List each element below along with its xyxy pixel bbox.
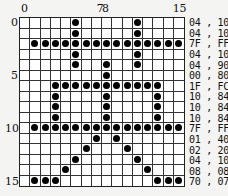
grid-cell [143, 102, 153, 113]
filled-dot-icon [154, 40, 161, 47]
grid-cell [164, 50, 174, 61]
grid-cell [71, 176, 81, 187]
grid-cell [71, 113, 81, 124]
grid-cell [41, 176, 51, 187]
grid-cell [153, 134, 163, 145]
grid-cell [41, 29, 51, 40]
grid-cell [20, 165, 30, 176]
grid-cell [123, 60, 133, 71]
filled-dot-icon [134, 51, 141, 58]
grid-cell [112, 81, 122, 92]
filled-dot-icon [154, 82, 161, 89]
filled-dot-icon [144, 40, 151, 47]
grid-cell [133, 155, 143, 166]
grid-cell [41, 113, 51, 124]
grid-cell [112, 102, 122, 113]
grid-cell [112, 176, 122, 187]
filled-dot-icon [154, 93, 161, 100]
grid-cell [82, 113, 92, 124]
grid-cell [133, 60, 143, 71]
grid-cell [41, 81, 51, 92]
grid-cell [174, 18, 184, 29]
grid-cell [153, 165, 163, 176]
filled-dot-icon [144, 82, 151, 89]
grid-cell [92, 71, 102, 82]
column-label: 8 [102, 3, 109, 14]
grid-cell [133, 92, 143, 103]
filled-dot-icon [31, 40, 38, 47]
grid-cell [41, 18, 51, 29]
grid-cell [133, 144, 143, 155]
filled-dot-icon [175, 124, 182, 131]
grid-cell [133, 81, 143, 92]
row-hex-code: 10 , 84 [189, 103, 228, 114]
grid-cell [82, 60, 92, 71]
grid-cell [102, 123, 112, 134]
grid-cell [174, 134, 184, 145]
grid-cell [102, 18, 112, 29]
grid-cell [51, 144, 61, 155]
grid-cell [71, 81, 81, 92]
filled-dot-icon [134, 156, 141, 163]
grid-cell [164, 102, 174, 113]
filled-dot-icon [134, 19, 141, 26]
grid-cell [164, 29, 174, 40]
filled-dot-icon [103, 114, 110, 121]
filled-dot-icon [31, 124, 38, 131]
filled-dot-icon [113, 82, 120, 89]
grid-cell [153, 50, 163, 61]
grid-cell [174, 113, 184, 124]
dot-matrix-grid [19, 17, 185, 187]
grid-cell [143, 29, 153, 40]
grid-cell [174, 39, 184, 50]
grid-cell [61, 155, 71, 166]
grid-cell [133, 71, 143, 82]
filled-dot-icon [93, 40, 100, 47]
grid-cell [82, 50, 92, 61]
filled-dot-icon [103, 124, 110, 131]
filled-dot-icon [124, 40, 131, 47]
grid-cell [164, 113, 174, 124]
grid-cell [123, 92, 133, 103]
grid-cell [123, 165, 133, 176]
filled-dot-icon [52, 177, 59, 184]
grid-cell [153, 18, 163, 29]
filled-dot-icon [52, 40, 59, 47]
grid-cell [71, 155, 81, 166]
grid-cell [20, 60, 30, 71]
grid-cell [102, 134, 112, 145]
grid-cell [51, 29, 61, 40]
grid-cell [20, 29, 30, 40]
grid-cell [51, 92, 61, 103]
grid-cell [30, 92, 40, 103]
grid-cell [82, 39, 92, 50]
filled-dot-icon [93, 135, 100, 142]
grid-cell [143, 50, 153, 61]
grid-cell [61, 18, 71, 29]
grid-cell [153, 71, 163, 82]
grid-cell [61, 50, 71, 61]
filled-dot-icon [103, 82, 110, 89]
grid-cell [164, 155, 174, 166]
grid-cell [123, 123, 133, 134]
grid-cell [92, 92, 102, 103]
grid-cell [143, 18, 153, 29]
filled-dot-icon [124, 82, 131, 89]
filled-dot-icon [103, 40, 110, 47]
grid-cell [71, 165, 81, 176]
grid-cell [133, 113, 143, 124]
grid-cell [143, 144, 153, 155]
grid-cell [174, 50, 184, 61]
grid-cell [153, 102, 163, 113]
grid-cell [30, 50, 40, 61]
filled-dot-icon [154, 177, 161, 184]
grid-cell [71, 60, 81, 71]
grid-cell [123, 176, 133, 187]
grid-cell [61, 60, 71, 71]
filled-dot-icon [165, 124, 172, 131]
grid-cell [61, 176, 71, 187]
grid-cell [112, 92, 122, 103]
grid-cell [82, 71, 92, 82]
grid-cell [112, 18, 122, 29]
grid-cell [153, 144, 163, 155]
